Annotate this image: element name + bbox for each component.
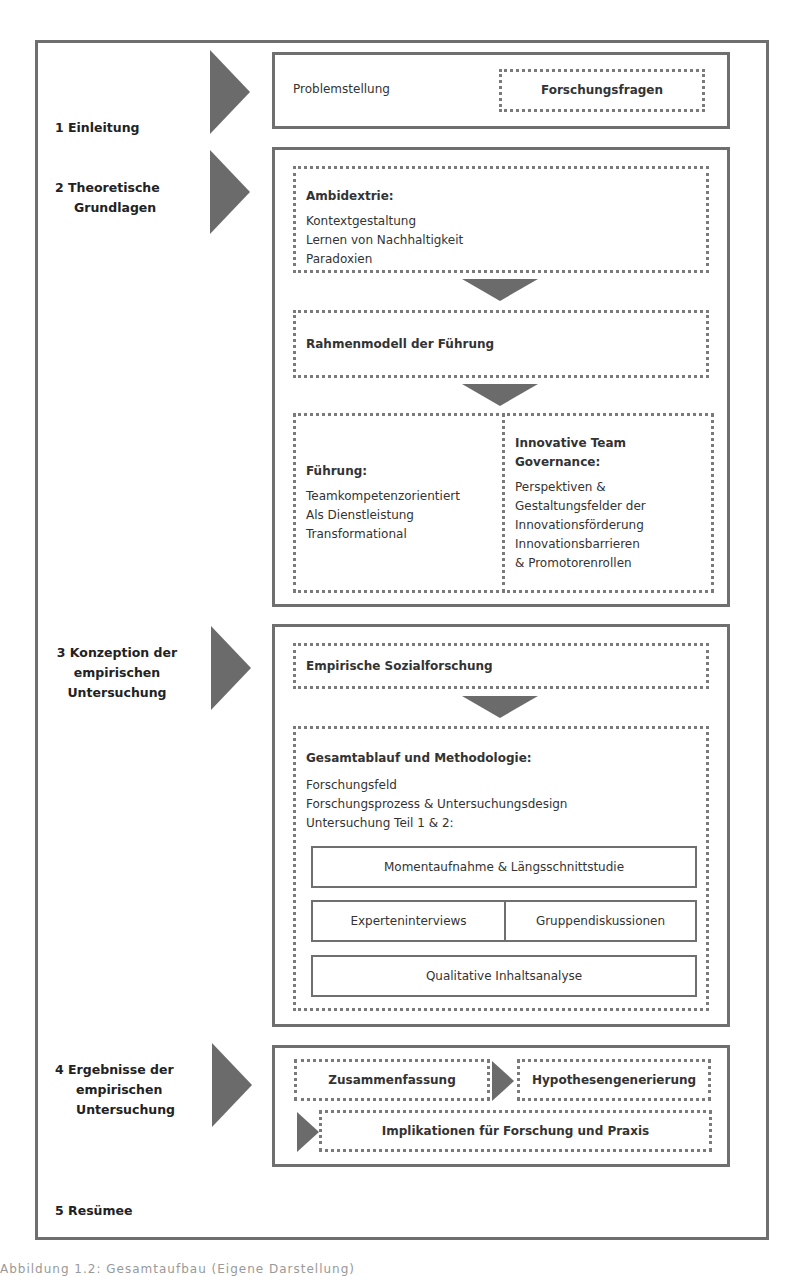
arrow-right-icon: [297, 1112, 319, 1152]
arrow-down-icon: [462, 696, 538, 718]
figure-caption: Abbildung 1.2: Gesamtaufbau (Eigene Dars…: [0, 1262, 355, 1276]
section-5-label: 5 Resümee: [55, 1201, 132, 1221]
section-4-label: 4 Ergebnisse der empirischen Untersuchun…: [55, 1060, 175, 1120]
forschungsfragen-label: Forschungsfragen: [541, 81, 663, 100]
hypothesen-box: Hypothesengenerierung: [517, 1059, 711, 1101]
zusammenfassung-box: Zusammenfassung: [294, 1059, 490, 1101]
sozialforschung-box: Empirische Sozialforschung: [293, 643, 709, 689]
arrow-right-icon: [211, 626, 251, 710]
section-3-label: 3 Konzeption der empirischen Untersuchun…: [52, 643, 182, 703]
arrow-right-icon: [210, 50, 250, 134]
problemstellung-label: Problemstellung: [293, 80, 390, 99]
ambidextrie-box: Ambidextrie: Kontextgestaltung Lernen vo…: [293, 166, 709, 273]
gruppendiskussionen-box: Gruppendiskussionen: [504, 900, 697, 942]
arrow-down-icon: [462, 384, 538, 406]
arrow-down-icon: [462, 279, 538, 301]
arrow-right-icon: [212, 1043, 252, 1127]
momentaufnahme-box: Momentaufnahme & Längsschnittstudie: [311, 846, 697, 888]
experteninterviews-box: Experteninterviews: [311, 900, 506, 942]
forschungsfragen-box: Forschungsfragen: [499, 69, 705, 112]
section-2-label: 2 Theoretische Grundlagen: [55, 178, 160, 218]
inhaltsanalyse-box: Qualitative Inhaltsanalyse: [311, 955, 697, 997]
arrow-right-icon: [492, 1061, 514, 1101]
arrow-right-icon: [210, 150, 250, 234]
section-1-label: 1 Einleitung: [55, 118, 140, 138]
rahmenmodell-box: Rahmenmodell der Führung: [293, 310, 709, 378]
fuehrung-box: Führung: Teamkompetenzorientiert Als Die…: [293, 413, 505, 593]
implikationen-box: Implikationen für Forschung und Praxis: [319, 1110, 712, 1152]
governance-box: Innovative Team Governance: Perspektiven…: [502, 413, 714, 593]
